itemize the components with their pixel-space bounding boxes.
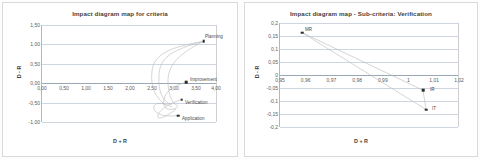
xtick-verification-3: 0,98 [352,77,362,83]
gridline-y-neg-1-00 [42,122,216,123]
xtick-verification-7: 1,02 [454,77,464,83]
chart-title-criteria: Impact diagram map for criteria [3,10,237,17]
ytick-verification-8: -0,2 [269,124,280,130]
xtick-criteria-1: 0,50 [59,85,69,91]
chart-panel-criteria: Impact diagram map for criteria D - R D … [2,2,238,157]
plot-area-verification: 0,2 0,15 0,1 0,05 0 -0,05 -0,1 -0,15 -0,… [279,23,459,127]
gridline-y-1-50 [42,25,216,26]
data-point-mr[interactable] [301,31,304,34]
data-point-verification[interactable] [180,98,183,101]
xtick-criteria-0: 0,00 [37,85,47,91]
ytick-verification-6: -0,1 [269,98,280,104]
data-label-verification: Verification [185,100,207,105]
chart-panel-verification: Impact diagram map - Sub-criteria: Verif… [244,2,478,157]
xtick-criteria-6: 3,00 [169,85,179,91]
ytick-criteria-5: -1,00 [29,119,42,125]
data-label-ir: IR [430,87,435,92]
chart-title-verification: Impact diagram map - Sub-criteria: Verif… [245,10,477,17]
x-axis-label-criteria: D + R [3,138,237,144]
ytick-verification-7: -0,15 [267,111,280,117]
ytick-criteria-0: 1,50 [30,22,42,28]
data-label-planning: Planning [205,34,223,39]
gridline-v-0-15 [280,36,458,37]
xtick-criteria-5: 2,50 [147,85,157,91]
data-label-mr: MR [305,27,312,32]
xtick-verification-4: 0,99 [378,77,388,83]
influence-arcs-criteria [42,25,218,122]
gridline-v-0-05 [280,62,458,63]
xtick-verification-0: 0,95 [275,77,285,83]
xtick-verification-6: 1,01 [429,77,439,83]
data-point-planning[interactable] [202,40,205,43]
data-point-application[interactable] [177,114,180,117]
xtick-criteria-7: 3,50 [191,85,201,91]
data-label-improvement: Improvement [190,77,217,82]
xtick-verification-1: 0,96 [301,77,311,83]
ytick-criteria-2: 0,50 [30,61,42,67]
xtick-verification-5: 1 [407,77,410,83]
y-axis-label-criteria: D - R [16,52,22,92]
data-label-application: Application [182,116,204,121]
ytick-criteria-1: 1,00 [30,41,42,47]
screenshot-root: Impact diagram map for criteria D - R D … [0,0,480,159]
ytick-verification-5: -0,05 [267,85,280,91]
ytick-verification-2: 0,1 [271,46,280,52]
gridline-v-0-20 [280,23,458,24]
ytick-criteria-4: -0,50 [29,100,42,106]
gridline-y-1-00 [42,44,216,45]
plot-area-criteria: 1,50 1,00 0,50 0,00 -0,50 -1,00 0,00 0,5… [41,25,217,122]
xtick-verification-2: 0,97 [327,77,337,83]
x-axis-label-verification: D + R [245,138,477,144]
data-point-ir[interactable] [422,89,425,92]
xtick-criteria-8: 4,00 [211,85,221,91]
gridline-v-0-10 [280,49,458,50]
ytick-verification-0: 0,2 [271,20,280,26]
gridline-v-neg-0-20 [280,127,458,128]
ytick-verification-3: 0,05 [268,59,280,65]
xtick-criteria-2: 1,00 [81,85,91,91]
y-axis-label-verification: D - R [254,52,260,92]
data-point-it[interactable] [425,108,428,111]
data-label-it: IT [432,106,436,111]
gridline-v-neg-0-10 [280,101,458,102]
gridline-v-0-00 [280,75,458,76]
gridline-v-neg-0-15 [280,114,458,115]
gridline-y-0-50 [42,64,216,65]
data-point-improvement[interactable] [185,81,188,84]
xtick-criteria-3: 1,50 [103,85,113,91]
xtick-criteria-4: 2,00 [125,85,135,91]
ytick-verification-1: 0,15 [268,33,280,39]
